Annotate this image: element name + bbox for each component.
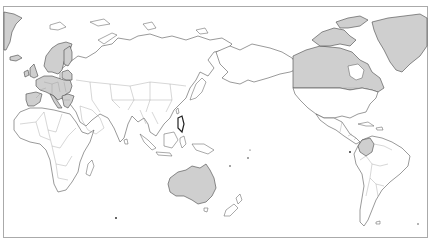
island-samoa — [249, 149, 250, 150]
island-hispaniola — [376, 127, 383, 130]
island-new-zealand-north — [236, 194, 242, 204]
island-sumatra — [140, 134, 156, 150]
region-canadian-arctic-islands — [312, 28, 356, 46]
island-madagascar — [86, 160, 94, 176]
island-cuba — [358, 122, 374, 126]
island-java — [156, 152, 172, 156]
island-sri-lanka — [124, 139, 128, 144]
island-new-guinea — [192, 144, 214, 154]
island-vanuatu — [229, 165, 231, 167]
island-philippines — [178, 116, 184, 132]
region-usa — [293, 88, 378, 118]
map-canvas — [0, 0, 431, 241]
island-fiji — [247, 157, 249, 159]
region-iberia — [26, 92, 42, 106]
island-sulawesi — [180, 136, 186, 148]
region-iceland — [10, 55, 22, 61]
region-mexico-central-america — [316, 114, 360, 144]
region-greenland-west-fragment — [4, 12, 22, 50]
island-borneo — [164, 132, 178, 148]
island-falklands — [376, 221, 380, 224]
island-tasmania — [204, 208, 208, 212]
island-kerguelen — [115, 217, 117, 219]
region-alaska — [216, 44, 300, 84]
island-new-zealand-south — [224, 204, 238, 216]
region-greenland — [372, 14, 427, 72]
region-ireland — [24, 70, 29, 77]
island-taiwan — [176, 108, 179, 114]
island-svalbard — [50, 22, 66, 30]
island-franz-josef — [90, 19, 110, 26]
world-map — [0, 0, 431, 241]
island-severnaya-zemlya — [143, 22, 156, 30]
region-eurasia — [56, 34, 232, 142]
island-south-georgia — [417, 223, 418, 224]
region-canada — [293, 46, 384, 92]
island-new-siberian — [196, 28, 208, 34]
region-australia — [168, 164, 216, 204]
island-galapagos — [349, 151, 351, 153]
region-ellesmere — [336, 16, 368, 28]
region-uk — [30, 64, 38, 78]
